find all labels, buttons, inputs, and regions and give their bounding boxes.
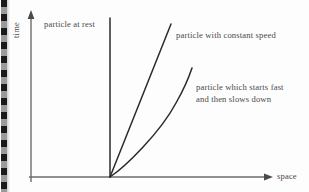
worldline-starts-fast-then-slows (110, 68, 192, 177)
annotation-particle-starts-fast: particle which starts fast and then slow… (196, 82, 284, 105)
figure-canvas: time space particle at rest particle wit… (0, 0, 309, 192)
annotation-particle-at-rest: particle at rest (44, 19, 95, 31)
annotation-line-2: and then slows down (196, 94, 284, 106)
space-axis-label: space (277, 171, 297, 183)
annotation-line-1: particle which starts fast (196, 82, 284, 94)
arrow-right-icon (264, 174, 273, 181)
annotation-particle-constant-speed: particle with constant speed (176, 30, 276, 42)
arrow-up-icon (28, 10, 35, 19)
time-axis-label: time (11, 10, 23, 50)
worldline-constant-speed (110, 24, 171, 177)
